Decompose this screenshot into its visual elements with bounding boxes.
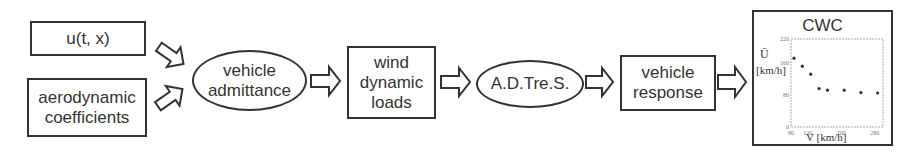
y-tick-label: 220 <box>780 36 789 42</box>
cwc-plot: Ū [km/h] 080160220 80120200280 V [km/h] <box>754 12 891 144</box>
y-axis-symbol: Ū <box>760 47 769 61</box>
node-vehicle-admittance: vehicle admittance <box>192 50 307 111</box>
node-wind-speed-input: u(t, x) <box>30 21 146 56</box>
arrow-loads-to-adtres <box>441 68 470 96</box>
node-aerodynamic-coefficients: aerodynamic coefficients <box>27 78 147 137</box>
data-points <box>792 57 879 95</box>
y-tick-label: 80 <box>783 92 789 98</box>
y-tick-label: 160 <box>780 60 789 66</box>
node-vehicle-response: vehicle response <box>620 55 716 111</box>
data-point <box>817 87 820 90</box>
data-point <box>801 65 804 68</box>
x-tick-label: 80 <box>788 130 794 136</box>
data-point <box>843 89 846 92</box>
data-point <box>826 89 829 92</box>
x-axis-label: V [km/h] <box>806 131 846 143</box>
node-cwc-chart: CWC Ū [km/h] 080160220 80120200280 V [km… <box>752 10 893 146</box>
node-label: u(t, x) <box>66 29 109 49</box>
arrow-aero-to-admittance <box>151 79 189 116</box>
arrow-response-to-chart <box>718 67 746 97</box>
node-label: vehicle admittance <box>208 61 291 101</box>
data-point <box>859 91 862 94</box>
data-point <box>792 57 795 60</box>
y-ticks: 080160220 <box>780 36 789 130</box>
node-label: aerodynamic coefficients <box>38 88 135 128</box>
node-label: vehicle response <box>633 63 703 103</box>
node-label: A.D.Tre.S. <box>491 74 570 94</box>
x-tick-label: 280 <box>870 130 879 136</box>
node-adtres: A.D.Tre.S. <box>476 60 584 108</box>
node-label: wind dynamic loads <box>360 53 423 113</box>
node-wind-dynamic-loads: wind dynamic loads <box>347 46 436 119</box>
arrow-admittance-to-loads <box>311 67 340 95</box>
plot-frame <box>791 39 883 127</box>
data-point <box>876 91 879 94</box>
data-point <box>809 73 812 76</box>
arrow-adtres-to-response <box>586 68 613 96</box>
arrow-wind-to-admittance <box>152 37 190 74</box>
